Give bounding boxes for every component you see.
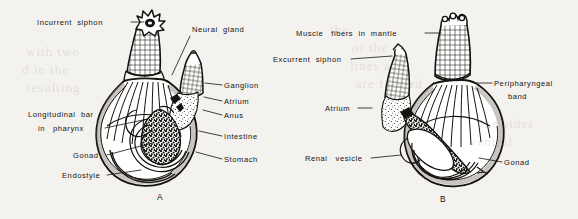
label-incurrent-siphon: Incurrent siphon [37,18,103,27]
label-intestine: Intestine [224,132,258,141]
label-longitudinal-bar-in-pharynx-line2: in pharynx [38,124,84,133]
leader-intestine [199,131,222,136]
oral-siphon-shape-b [433,13,472,88]
label-anus: Anus [224,111,244,120]
panel-b-drawing [382,13,504,186]
leader-ganglion [205,83,222,85]
incurrent-siphon-shape [124,10,165,85]
panel-caption-b: B [440,194,446,204]
label-renal-vesicle: Renal vesicle [305,154,363,163]
label-neural-gland: Neural gland [192,25,244,34]
panel-captions: AB [157,192,446,204]
label-atrium: Atrium [224,97,249,106]
label-atrium: Atrium [325,104,350,113]
leader-renal-vesicle [371,155,401,158]
leader-anus [203,110,222,115]
label-longitudinal-bar-in-pharynx-line1: Longitudinal bar [28,110,94,119]
panel-caption-a: A [157,192,163,202]
leader-excurrent-siphon [351,56,392,59]
label-stomach: Stomach [224,155,258,164]
label-endostyle: Endostyle [62,171,100,180]
leader-stomach [196,152,222,159]
excurrent-siphon-shape-a [180,51,203,97]
ascidian-figure: Incurrent siphonNeural glandGanglionAtri… [0,0,578,219]
leader-atrium [204,97,222,101]
label-ganglion: Ganglion [224,81,259,90]
panel-a-drawing [96,10,203,186]
label-peripharyngeal-band-line2: band [508,92,527,101]
label-gonad: Gonad [73,151,99,160]
label-excurrent-siphon: Excurrent siphon [273,55,341,64]
label-gonad: Gonad [504,158,530,167]
figure-canvas: Incurrent siphonNeural glandGanglionAtri… [0,0,578,219]
label-peripharyngeal-band-line1: Peripharyngeal [494,79,553,88]
label-muscle-fibers-in-mantle: Muscle fibers in mantle [296,29,397,38]
excurrent-siphon-shape-b [385,44,409,101]
